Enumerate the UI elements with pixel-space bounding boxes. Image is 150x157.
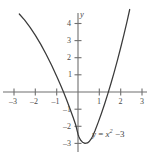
- y-tick-label--2: –2: [63, 123, 71, 131]
- x-tick-label--3: –3: [9, 98, 17, 106]
- y-tick-label-1: 1: [68, 71, 72, 79]
- x-tick-label-1: 1: [97, 98, 101, 106]
- x-tick-label-3: 3: [140, 98, 144, 106]
- parabola-curve: [19, 10, 129, 144]
- x-tick-label--2: –2: [30, 98, 38, 106]
- y-axis-label: y: [80, 10, 84, 19]
- equation-lhs: y: [92, 129, 96, 139]
- x-tick-label-2: 2: [119, 98, 123, 106]
- x-tick-label--1: –1: [52, 98, 60, 106]
- y-tick-label--1: –1: [63, 106, 71, 114]
- equation-annotation: y = x2 −3: [92, 128, 125, 139]
- y-tick-label--3: –3: [63, 140, 71, 148]
- y-tick-label-4: 4: [67, 20, 71, 28]
- y-tick-label-2: 2: [67, 54, 71, 62]
- y-tick-label-3: 3: [67, 37, 71, 45]
- equation-equals: =: [98, 129, 103, 139]
- equation-exponent: 2: [110, 127, 113, 134]
- parabola-figure: y –3 –2 –1 1 2 3 4 3 2 1 –1 –2 –3 y = x2…: [0, 0, 150, 157]
- graph-canvas: [0, 0, 150, 157]
- equation-constant: 3: [120, 129, 125, 139]
